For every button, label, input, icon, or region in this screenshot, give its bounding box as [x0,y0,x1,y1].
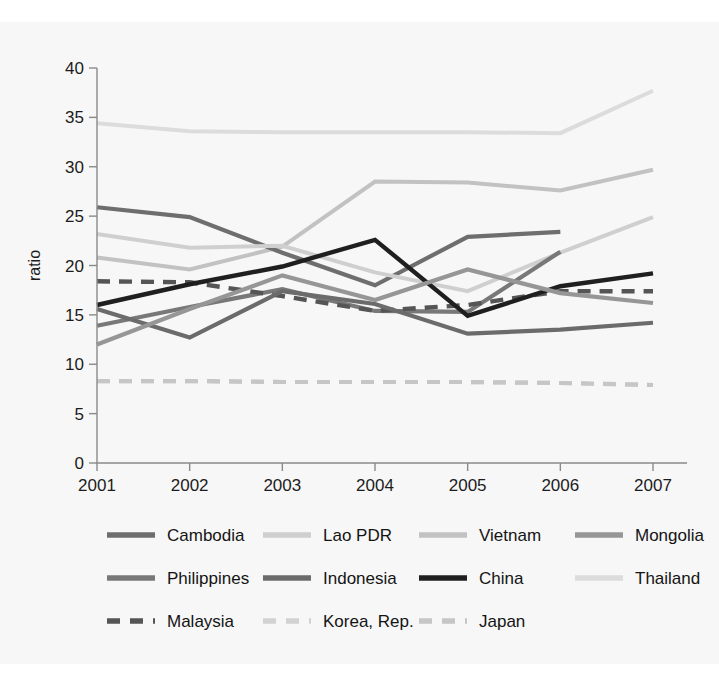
legend-item-lao-pdr[interactable]: Lao PDR [263,526,392,545]
series-line-lao-pdr [97,217,653,291]
y-tick-label: 40 [65,59,84,78]
legend-label: Indonesia [323,569,397,588]
legend-item-thailand[interactable]: Thailand [575,569,700,588]
legend-label: Lao PDR [323,526,392,545]
x-tick-label: 2003 [263,476,301,495]
legend-item-japan[interactable]: Japan [419,612,525,631]
y-axis-title: ratio [26,250,43,281]
x-tick-label: 2002 [171,476,209,495]
y-tick-label: 10 [65,355,84,374]
legend-label: Malaysia [167,612,235,631]
legend-item-korea-rep[interactable]: Korea, Rep. [263,612,414,631]
legend-item-philippines[interactable]: Philippines [107,569,249,588]
legend-label: China [479,569,524,588]
figure-panel: 0510152025303540200120022003200420052006… [0,22,719,664]
legend-item-china[interactable]: China [419,569,524,588]
legend-label: Cambodia [167,526,245,545]
x-tick-label: 2001 [78,476,116,495]
y-tick-label: 20 [65,257,84,276]
legend-label: Japan [479,612,525,631]
legend-item-cambodia[interactable]: Cambodia [107,526,245,545]
x-tick-label: 2005 [449,476,487,495]
legend-label: Vietnam [479,526,541,545]
legend-item-mongolia[interactable]: Mongolia [575,526,705,545]
legend-item-malaysia[interactable]: Malaysia [107,612,235,631]
y-tick-label: 30 [65,158,84,177]
series-line-japan [97,381,653,385]
legend-label: Mongolia [635,526,705,545]
legend-label: Korea, Rep. [323,612,414,631]
legend-label: Thailand [635,569,700,588]
y-tick-label: 0 [75,454,84,473]
legend-item-vietnam[interactable]: Vietnam [419,526,541,545]
axis-spine [97,68,687,463]
y-tick-label: 15 [65,306,84,325]
series-line-thailand [97,91,653,133]
x-tick-label: 2007 [634,476,672,495]
y-tick-label: 5 [75,405,84,424]
legend-item-indonesia[interactable]: Indonesia [263,569,397,588]
series-line-vietnam [97,170,653,270]
legend-label: Philippines [167,569,249,588]
x-tick-label: 2004 [356,476,394,495]
chart-legend: CambodiaLao PDRVietnamMongoliaPhilippine… [107,526,705,631]
y-tick-label: 25 [65,207,84,226]
line-chart: 0510152025303540200120022003200420052006… [0,22,719,664]
x-tick-label: 2006 [541,476,579,495]
y-tick-label: 35 [65,108,84,127]
plot-area [97,91,653,385]
